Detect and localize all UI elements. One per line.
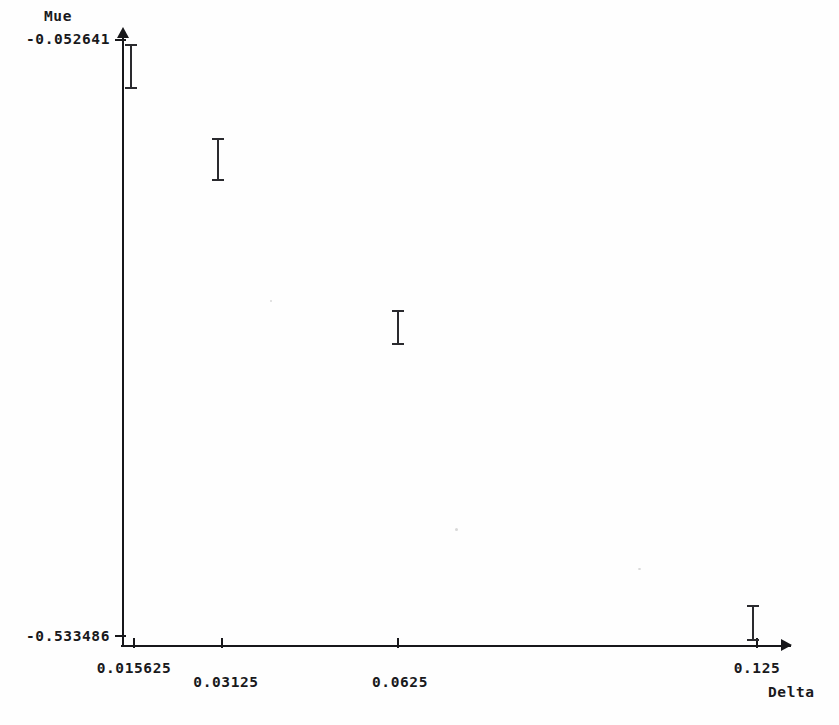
data-point-errorbar <box>392 310 404 345</box>
y-tick-mark <box>115 39 126 41</box>
y-tick-label-max: -0.052641 <box>8 31 110 47</box>
x-tick-label-1: 0.03125 <box>193 674 258 690</box>
errorbar-cap-bottom <box>747 639 759 641</box>
x-tick-label-3: 0.125 <box>734 660 781 676</box>
errorbar-cap-bottom <box>125 87 137 89</box>
scan-speckle <box>270 300 272 302</box>
data-point-errorbar <box>747 605 759 641</box>
x-tick-label-2: 0.0625 <box>372 674 428 690</box>
errorbar-stem <box>217 138 219 181</box>
data-point-errorbar <box>125 44 137 89</box>
y-axis-line <box>122 36 124 647</box>
x-axis-arrow-icon <box>781 639 792 651</box>
x-tick-mark <box>397 638 399 648</box>
y-axis-arrow-icon <box>117 27 129 38</box>
scan-speckle <box>455 528 458 531</box>
x-axis-title: Delta <box>768 684 815 700</box>
errorbar-stem <box>397 310 399 345</box>
y-tick-label-min: -0.533486 <box>8 628 110 644</box>
data-point-errorbar <box>212 138 224 181</box>
scan-speckle <box>638 568 641 570</box>
y-axis-title: Mue <box>44 8 72 24</box>
errorbar-cap-bottom <box>212 179 224 181</box>
errorbar-stem <box>130 44 132 89</box>
x-tick-mark <box>133 638 135 648</box>
y-tick-mark <box>115 635 126 637</box>
chart-canvas: Mue Delta -0.052641 -0.533486 0.015625 0… <box>0 0 839 725</box>
x-tick-mark <box>221 638 223 648</box>
errorbar-stem <box>752 605 754 641</box>
errorbar-cap-bottom <box>392 343 404 345</box>
x-tick-label-0: 0.015625 <box>97 660 172 676</box>
